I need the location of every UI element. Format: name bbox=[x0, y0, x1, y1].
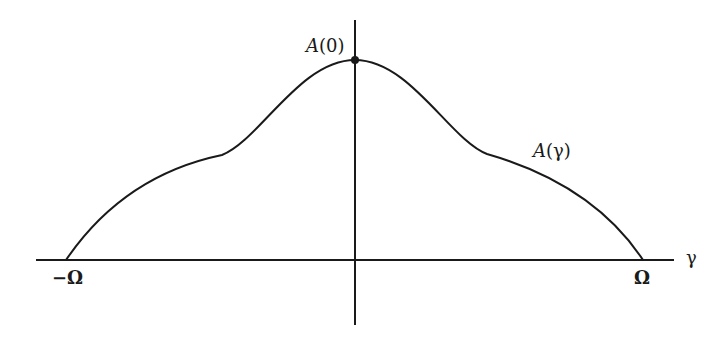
curve-label: A(γ) bbox=[531, 140, 571, 161]
left-bound-label: −Ω bbox=[52, 267, 83, 288]
right-bound-label: Ω bbox=[634, 267, 650, 288]
peak-label: A(0) bbox=[304, 35, 345, 56]
x-axis-label: γ bbox=[686, 247, 697, 268]
spectrum-diagram: A(0) A(γ) γ −Ω Ω bbox=[0, 0, 719, 340]
peak-point-marker bbox=[351, 56, 359, 64]
